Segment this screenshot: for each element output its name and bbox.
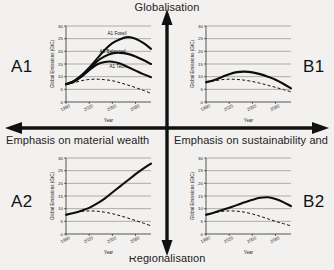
svg-text:15: 15 [58, 194, 63, 199]
series-annotation: A1 Balanced [100, 49, 126, 54]
series-annotation: A1 Fossil [108, 31, 127, 36]
quadrant-label-a2: A2 [11, 192, 32, 212]
svg-text:10: 10 [198, 74, 203, 79]
quadrant-label-b1: B1 [303, 57, 324, 77]
axis-label-material-wealth: Emphasis on material wealth [6, 134, 149, 146]
svg-text:30: 30 [198, 24, 203, 29]
chart-canvas-A1: 0510152025301990202020502080YearGlobal E… [46, 20, 156, 124]
svg-text:10: 10 [198, 206, 203, 211]
series-annotation: A1 Tech [110, 64, 127, 69]
quadrant-label-b2: B2 [303, 192, 324, 212]
svg-text:Year: Year [244, 118, 254, 123]
chart-b1: 0510152025301990202020502080YearGlobal E… [186, 20, 296, 124]
svg-text:15: 15 [58, 62, 63, 67]
svg-text:20: 20 [198, 181, 203, 186]
svg-text:25: 25 [58, 36, 63, 41]
chart-canvas-A2: 0510152025301990202020502080YearGlobal E… [46, 152, 156, 256]
svg-text:20: 20 [58, 49, 63, 54]
axis-label-sustainability: Emphasis on sustainability and [174, 134, 328, 146]
svg-text:Global Emissions (GtC): Global Emissions (GtC) [50, 172, 55, 220]
svg-text:20: 20 [198, 49, 203, 54]
svg-text:30: 30 [58, 24, 63, 29]
axis-label-globalisation: Globalisation [135, 1, 200, 13]
svg-text:20: 20 [58, 181, 63, 186]
svg-text:Global Emissions (GtC): Global Emissions (GtC) [50, 40, 55, 88]
chart-a2: 0510152025301990202020502080YearGlobal E… [46, 152, 156, 256]
svg-text:30: 30 [198, 156, 203, 161]
svg-text:Year: Year [104, 118, 114, 123]
svg-text:30: 30 [58, 156, 63, 161]
svg-text:Global Emissions (GtC): Global Emissions (GtC) [190, 172, 195, 220]
quadrant-label-a1: A1 [11, 57, 32, 77]
svg-text:25: 25 [58, 168, 63, 173]
chart-canvas-B1: 0510152025301990202020502080YearGlobal E… [186, 20, 296, 124]
svg-text:Year: Year [104, 250, 114, 255]
chart-canvas-B2: 0510152025301990202020502080YearGlobal E… [186, 152, 296, 256]
svg-text:25: 25 [198, 168, 203, 173]
svg-text:10: 10 [58, 74, 63, 79]
svg-text:15: 15 [198, 62, 203, 67]
scenario-quadrant-diagram: Globalisation Regionalisation Emphasis o… [0, 0, 334, 270]
chart-b2: 0510152025301990202020502080YearGlobal E… [186, 152, 296, 256]
svg-text:Year: Year [244, 250, 254, 255]
svg-text:15: 15 [198, 194, 203, 199]
svg-text:Global Emissions (GtC): Global Emissions (GtC) [190, 40, 195, 88]
svg-text:10: 10 [58, 206, 63, 211]
svg-text:25: 25 [198, 36, 203, 41]
chart-a1: 0510152025301990202020502080YearGlobal E… [46, 20, 156, 124]
